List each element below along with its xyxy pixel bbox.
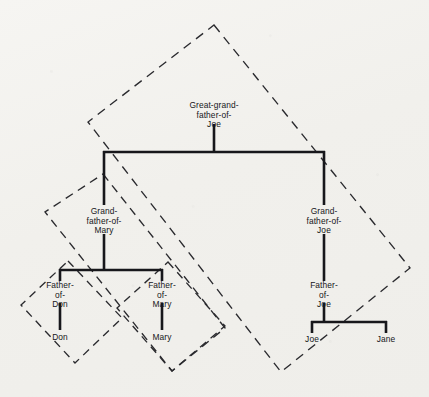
node-joe: Joe [305, 335, 319, 345]
enclosure-grandfather-of-mary [45, 174, 225, 371]
node-jane: Jane [377, 335, 396, 345]
node-grandfather-of-mary: Grand- father-of- Mary [87, 207, 122, 236]
node-grandfather-of-joe: Grand- father-of- Joe [307, 207, 342, 236]
enclosure-father-of-don [21, 261, 122, 363]
node-father-of-mary: Father- of- Mary [148, 281, 176, 310]
node-don: Don [52, 333, 68, 343]
enclosure-great-grandfather-of-joe [88, 25, 410, 372]
node-mary: Mary [152, 333, 171, 343]
node-father-of-joe: Father- of- Joe [310, 281, 338, 310]
node-great-grandfather-of-joe: Great-grand- father-of- Joe [189, 101, 238, 130]
dashed-enclosures [21, 25, 410, 372]
node-father-of-don: Father- of- Don [46, 281, 74, 310]
